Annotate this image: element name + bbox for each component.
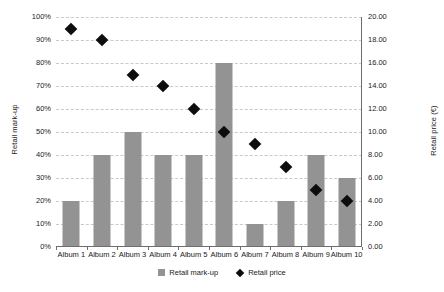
bar: [216, 63, 233, 247]
category-axis-label: Album 7: [241, 250, 269, 259]
category-axis-label: Album 5: [180, 250, 208, 259]
y-axis-left-tick-label: 20%: [36, 197, 51, 205]
bar: [155, 155, 172, 247]
bar: [246, 224, 263, 247]
y-axis-left-title: Retail mark-up: [10, 75, 19, 185]
y-axis-right-tick-label: 0.00: [368, 243, 383, 251]
y-axis-right-tick-label: 10.00: [368, 128, 387, 136]
bar: [338, 178, 355, 247]
category-axis-label: Album 3: [119, 250, 147, 259]
category-axis-label: Album 8: [272, 250, 300, 259]
y-axis-right-title: Retail price (€): [429, 76, 438, 186]
y-axis-right-tick-label: 18.00: [368, 36, 387, 44]
data-point-marker: [187, 103, 200, 116]
category-axis-labels: Album 1Album 2Album 3Album 4Album 5Album…: [56, 250, 362, 264]
data-point-marker: [96, 34, 109, 47]
y-axis-right-tick-label: 6.00: [368, 174, 383, 182]
diamond-swatch-icon: [236, 268, 244, 276]
x-axis-line: [56, 246, 362, 247]
y-axis-right-tick-label: 12.00: [368, 105, 387, 113]
category-axis-label: Album 4: [149, 250, 177, 259]
category-axis-label: Album 1: [58, 250, 86, 259]
y-axis-left-tick-label: 40%: [36, 151, 51, 159]
category-axis-label: Album 10: [331, 250, 363, 259]
chart-container: Retail mark-up Retail price (€) 0%10%20%…: [0, 0, 444, 292]
plot-area: 0%10%20%30%40%50%60%70%80%90%100% 0.002.…: [56, 17, 362, 247]
gridline: [56, 86, 362, 87]
y-axis-left-tick-label: 60%: [36, 105, 51, 113]
y-axis-right-tick-label: 20.00: [368, 13, 387, 21]
gridline: [56, 132, 362, 133]
data-point-marker: [126, 68, 139, 81]
y-axis-right-tick-label: 14.00: [368, 82, 387, 90]
y-axis-left-tick-label: 10%: [36, 220, 51, 228]
bar: [185, 155, 202, 247]
y-axis-right-tick-label: 4.00: [368, 197, 383, 205]
y-axis-left-tick-label: 90%: [36, 36, 51, 44]
legend-item-retail-markup: Retail mark-up: [158, 268, 218, 277]
gridline: [56, 109, 362, 110]
data-point-marker: [249, 137, 262, 150]
y-axis-right-tick-label: 8.00: [368, 151, 383, 159]
data-point-marker: [279, 160, 292, 173]
category-axis-label: Album 6: [211, 250, 239, 259]
bar: [308, 155, 325, 247]
y-axis-left-tick-label: 50%: [36, 128, 51, 136]
legend-label-retail-price: Retail price: [248, 268, 286, 277]
y-axis-left-tick-label: 30%: [36, 174, 51, 182]
bar: [93, 155, 110, 247]
data-point-marker: [65, 22, 78, 35]
chart-legend: Retail mark-up Retail price: [0, 268, 444, 277]
y-axis-left-tick-label: 70%: [36, 82, 51, 90]
legend-label-retail-markup: Retail mark-up: [169, 268, 218, 277]
data-point-marker: [157, 80, 170, 93]
bar: [277, 201, 294, 247]
gridline: [56, 17, 362, 18]
y-axis-right-line: [361, 17, 362, 247]
gridline: [56, 63, 362, 64]
category-axis-label: Album 2: [88, 250, 116, 259]
y-axis-right-tick-label: 16.00: [368, 59, 387, 67]
y-axis-right-tick-label: 2.00: [368, 220, 383, 228]
bar: [124, 132, 141, 247]
y-axis-left-tick-label: 0%: [40, 243, 51, 251]
category-axis-label: Album 9: [302, 250, 330, 259]
y-axis-left-tick-label: 100%: [32, 13, 51, 21]
square-swatch-icon: [158, 269, 165, 276]
y-axis-left-tick-label: 80%: [36, 59, 51, 67]
legend-item-retail-price: Retail price: [236, 268, 286, 277]
bar: [63, 201, 80, 247]
